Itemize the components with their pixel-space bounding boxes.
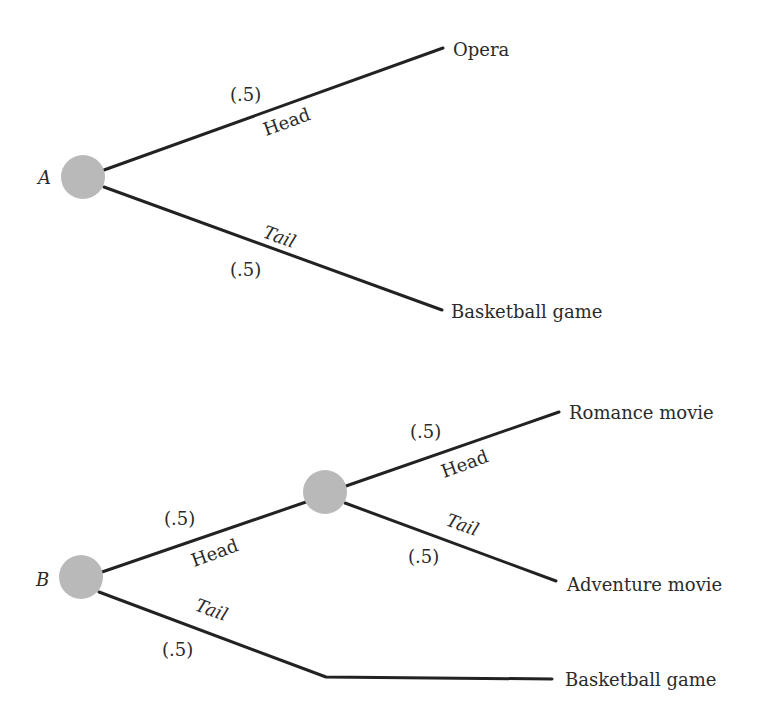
tree-b-sub-tail-prob: (.5): [408, 546, 439, 567]
tree-a-head-branch: [104, 48, 443, 170]
tree-a: A (.5) Head Tail (.5) Opera Basketball g…: [36, 39, 602, 322]
tree-a-outcome-opera: Opera: [453, 39, 510, 60]
tree-a-tail-branch: [104, 187, 442, 310]
tree-b-tail-prob: (.5): [162, 639, 193, 660]
decision-tree-diagram: A (.5) Head Tail (.5) Opera Basketball g…: [0, 0, 770, 714]
tree-a-root-label: A: [36, 167, 51, 188]
tree-b: B (.5) Head Tail (.5) (.5) Head Tail (.5…: [35, 402, 722, 690]
tree-a-chance-node: [61, 155, 105, 199]
tree-b-root-label: B: [35, 569, 49, 590]
tree-b-chance-node: [59, 555, 103, 599]
tree-a-head-label: Head: [260, 103, 313, 139]
tree-b-outcome-adventure: Adventure movie: [566, 574, 722, 595]
tree-b-outcome-romance: Romance movie: [569, 402, 714, 423]
tree-b-head-prob: (.5): [164, 508, 195, 529]
tree-b-sub-chance-node: [303, 470, 347, 514]
tree-a-outcome-basketball: Basketball game: [451, 301, 602, 322]
tree-b-tail-label: Tail: [193, 594, 231, 625]
tree-b-outcome-basketball: Basketball game: [565, 669, 716, 690]
tree-b-sub-head-prob: (.5): [410, 421, 441, 442]
tree-b-tail-branch: [99, 592, 552, 679]
tree-b-sub-tail-label: Tail: [444, 509, 482, 540]
tree-a-tail-prob: (.5): [230, 259, 261, 280]
tree-a-head-prob: (.5): [230, 84, 261, 105]
